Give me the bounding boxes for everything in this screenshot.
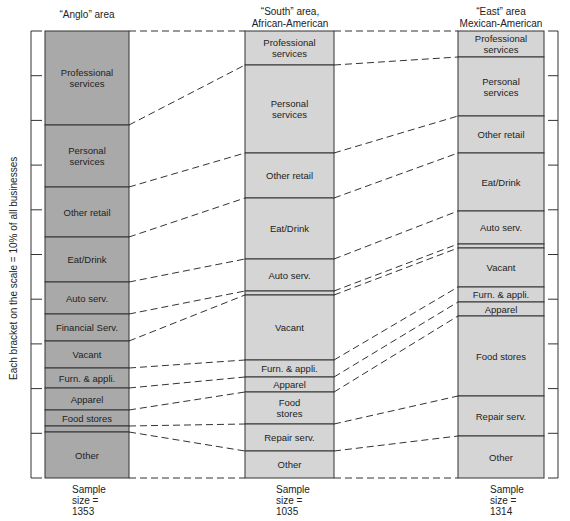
segment-label: services [70,156,105,167]
sample-size-east: Sample size = 1314 [490,484,524,517]
connector-oret [334,153,458,198]
connector-eat [334,211,458,259]
segment-label: Professional [475,33,527,44]
segment-label: Other retail [478,129,525,140]
segment-label: Professional [61,67,113,78]
segment-label: Professional [263,37,315,48]
segment-label: Repair serv. [264,432,315,443]
segment-label: Vacant [275,322,304,333]
connector-pers [129,153,245,187]
segment-label: Repair serv. [476,411,527,422]
segment-label: services [484,87,519,98]
connector-furn [334,302,458,377]
segment-label: Apparel [273,379,306,390]
segment-label: Personal [271,98,309,109]
connector-rep [129,432,245,451]
scale-bracket-left [31,31,42,478]
segment-label: Personal [482,76,520,87]
scale-axis-label: Each bracket on the scale = 10% of all b… [8,156,19,379]
segment-rep [45,426,129,432]
segment-label: Vacant [73,349,102,360]
connector-vac [334,287,458,360]
connector-food [334,396,458,424]
segment-label: Other [75,450,99,461]
bar-anglo: ProfessionalservicesPersonalservicesOthe… [45,31,129,478]
segment-label: services [272,48,307,59]
connector-pers [334,116,458,153]
segment-label: Other [489,452,513,463]
segment-label: Furn. & appli. [59,373,116,384]
connector-vac [129,360,245,368]
connector-eat [129,259,245,282]
segment-label: services [70,78,105,89]
segment-label: Apparel [71,394,104,405]
connector-oret [129,198,245,237]
segment-fin [245,291,334,295]
connector-auto [129,291,245,314]
segment-fin [458,244,544,248]
bar-south: ProfessionalservicesPersonalservicesOthe… [245,31,334,478]
segment-label: Personal [68,145,106,156]
connector-app [129,392,245,410]
segment-label: Furn. & appli. [473,289,530,300]
segment-label: Vacant [487,262,516,273]
segment-label: services [484,44,519,55]
segment-label: Apparel [485,304,518,315]
segment-label: Auto serv. [66,293,108,304]
column-title-east: “East” area Mexican-American [444,6,558,30]
column-title-anglo: “Anglo” area [45,9,129,21]
segment-label: Furn. & appli. [261,363,318,374]
segment-label: Food stores [62,413,112,424]
connector-fin [334,248,458,295]
connector-app [334,316,458,392]
segment-label: stores [277,408,303,419]
segment-label: Other retail [266,170,313,181]
segment-label: services [272,109,307,120]
scale-bracket-right [548,31,558,478]
sample-size-anglo: Sample size = 1353 [72,484,106,517]
stacked-bars: ProfessionalservicesPersonalservicesOthe… [45,31,544,478]
connector-prof [334,57,458,65]
segment-label: Eat/Drink [270,223,309,234]
bar-east: ProfessionalservicesPersonalservicesOthe… [458,31,544,478]
segment-label: Other retail [64,207,111,218]
segment-label: Eat/Drink [481,177,520,188]
connector-auto [334,244,458,291]
segment-label: Food stores [476,351,526,362]
segment-label: Food [279,397,301,408]
segment-label: Auto serv. [268,270,310,281]
connector-furn [129,377,245,388]
connector-food [129,424,245,426]
connector-fin [129,295,245,341]
segment-label: Other [278,459,302,470]
column-title-south: “South” area, African-American [230,6,350,30]
segment-label: Auto serv. [480,222,522,233]
connector-prof [129,65,245,125]
segment-label: Financial Serv. [56,322,118,333]
sample-size-south: Sample size = 1035 [276,484,310,517]
connector-rep [334,436,458,451]
business-composition-diagram: ProfessionalservicesPersonalservicesOthe… [0,0,570,521]
segment-label: Eat/Drink [67,254,106,265]
